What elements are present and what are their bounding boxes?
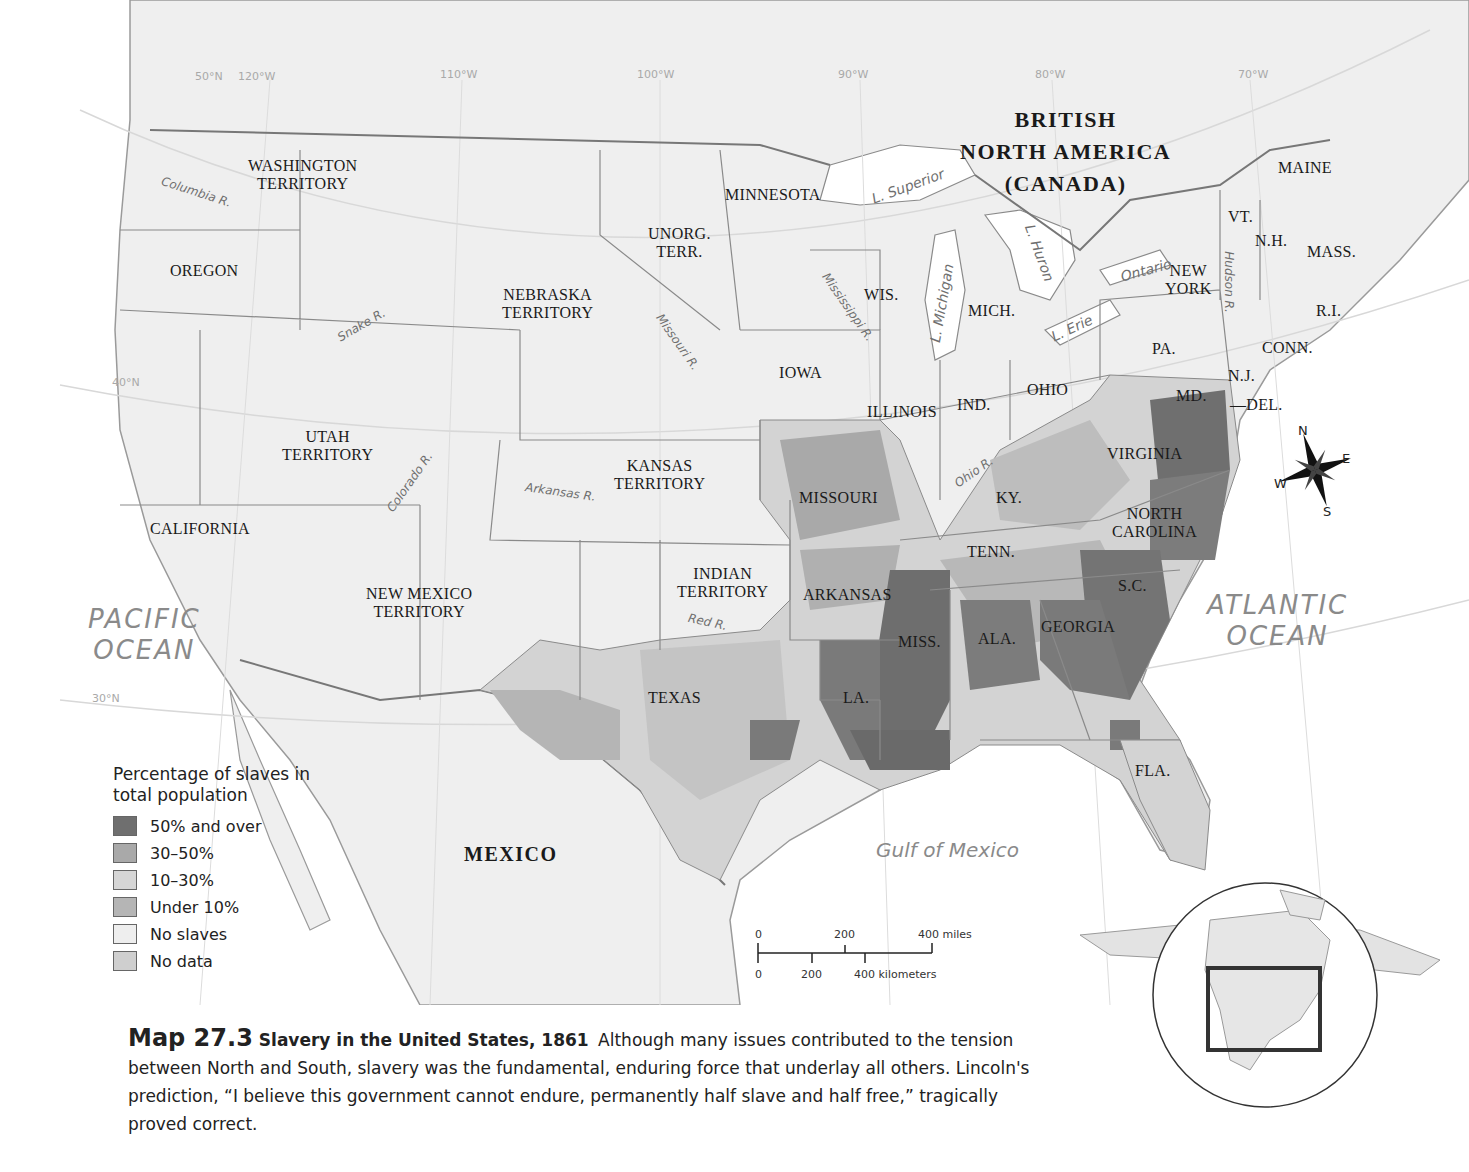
label-line: UTAH xyxy=(282,428,373,446)
label-new-hampshire: N.H. xyxy=(1255,232,1287,250)
label-new-mexico-territory: NEW MEXICOTERRITORY xyxy=(366,585,472,620)
label-south-carolina: S.C. xyxy=(1118,577,1147,595)
label-maryland: MD. xyxy=(1176,387,1207,405)
legend-label: Under 10% xyxy=(150,898,239,917)
label-oregon: OREGON xyxy=(170,262,238,280)
label-connecticut: CONN. xyxy=(1262,339,1313,357)
label-lon-100w: 100°W xyxy=(637,68,674,81)
label-kentucky: KY. xyxy=(996,489,1022,507)
label-pacific-ocean: PACIFICOCEAN xyxy=(88,604,201,666)
slavery-map: BRITISH NORTH AMERICA (CANADA) MEXICO WA… xyxy=(0,0,1469,1005)
svg-text:0: 0 xyxy=(755,968,762,981)
label-lon-120w: 120°W xyxy=(238,70,275,83)
label-line: OCEAN xyxy=(1207,621,1348,652)
label-line: CAROLINA xyxy=(1112,523,1197,541)
legend-swatch xyxy=(113,870,137,890)
label-illinois: ILLINOIS xyxy=(867,403,937,421)
label-hudson-river: Hudson R. xyxy=(1222,251,1236,312)
legend-title: Percentage of slaves in total population xyxy=(113,764,313,807)
label-line: NORTH AMERICA xyxy=(960,136,1171,168)
legend-item: No slaves xyxy=(113,921,313,948)
label-line: TERRITORY xyxy=(282,446,373,464)
label-rhode-island: R.I. xyxy=(1316,302,1341,320)
label-delaware: —DEL. xyxy=(1230,396,1283,414)
map-caption: Map 27.3Slavery in the United States, 18… xyxy=(128,1024,1048,1138)
label-line: (CANADA) xyxy=(960,168,1171,200)
label-missouri: MISSOURI xyxy=(799,489,878,507)
label-british-north-america: BRITISH NORTH AMERICA (CANADA) xyxy=(960,104,1171,200)
scale-bar: 0 200 400 miles 0 200 400 kilometers xyxy=(752,925,992,985)
label-line: KANSAS xyxy=(614,457,705,475)
label-gulf-of-mexico: Gulf of Mexico xyxy=(876,838,1019,862)
label-line: TERRITORY xyxy=(614,475,705,493)
label-lon-90w: 90°W xyxy=(838,68,868,81)
legend-label: No data xyxy=(150,952,213,971)
legend-item: 30–50% xyxy=(113,840,313,867)
label-line: TERRITORY xyxy=(502,304,593,322)
label-line: NEW MEXICO xyxy=(366,585,472,603)
label-kansas-territory: KANSASTERRITORY xyxy=(614,457,705,492)
label-line: BRITISH xyxy=(960,104,1171,136)
legend-swatch xyxy=(113,816,137,836)
label-line: TERRITORY xyxy=(366,603,472,621)
label-louisiana: LA. xyxy=(843,689,869,707)
svg-text:W: W xyxy=(1274,476,1287,491)
label-nebraska-territory: NEBRASKATERRITORY xyxy=(502,286,593,321)
caption-map-number: Map 27.3 xyxy=(128,1024,253,1052)
label-virginia: VIRGINIA xyxy=(1107,445,1182,463)
label-michigan: MICH. xyxy=(968,302,1015,320)
label-mississippi: MISS. xyxy=(898,633,941,651)
legend-label: 30–50% xyxy=(150,844,214,863)
label-line: INDIAN xyxy=(677,565,768,583)
label-unorganized-territory: UNORG.TERR. xyxy=(648,225,711,260)
label-line: TERR. xyxy=(648,243,711,261)
map-legend: Percentage of slaves in total population… xyxy=(113,764,313,975)
legend-swatch xyxy=(113,924,137,944)
label-mexico: MEXICO xyxy=(464,843,557,865)
label-line: PACIFIC xyxy=(88,604,201,635)
legend-label: 10–30% xyxy=(150,871,214,890)
label-wisconsin: WIS. xyxy=(864,286,899,304)
compass-rose-icon: N E S W xyxy=(1260,420,1360,520)
label-lat-30n: 30°N xyxy=(92,692,120,705)
label-massachusetts: MASS. xyxy=(1307,243,1356,261)
svg-text:400 kilometers: 400 kilometers xyxy=(854,968,937,981)
label-line: NEBRASKA xyxy=(502,286,593,304)
label-california: CALIFORNIA xyxy=(150,520,250,538)
label-line: ATLANTIC xyxy=(1207,590,1348,621)
label-tennessee: TENN. xyxy=(967,543,1015,561)
label-north-carolina: NORTHCAROLINA xyxy=(1112,505,1197,540)
svg-text:E: E xyxy=(1342,451,1350,466)
label-maine: MAINE xyxy=(1278,159,1332,177)
svg-text:0: 0 xyxy=(755,928,762,941)
locator-globe xyxy=(1150,880,1380,1110)
label-minnesota: MINNESOTA xyxy=(725,186,821,204)
label-line: TERRITORY xyxy=(248,175,357,193)
label-washington-territory: WASHINGTONTERRITORY xyxy=(248,157,357,192)
label-line: TERRITORY xyxy=(677,583,768,601)
label-line: YORK xyxy=(1165,280,1212,298)
legend-item: 50% and over xyxy=(113,813,313,840)
label-indian-territory: INDIANTERRITORY xyxy=(677,565,768,600)
label-pennsylvania: PA. xyxy=(1152,340,1176,358)
label-lon-70w: 70°W xyxy=(1238,68,1268,81)
legend-swatch xyxy=(113,951,137,971)
svg-text:200: 200 xyxy=(834,928,855,941)
label-line: WASHINGTON xyxy=(248,157,357,175)
label-new-jersey: N.J. xyxy=(1228,367,1255,385)
label-lat-50n: 50°N xyxy=(195,70,223,83)
label-utah-territory: UTAHTERRITORY xyxy=(282,428,373,463)
svg-text:S: S xyxy=(1323,504,1331,519)
label-line: UNORG. xyxy=(648,225,711,243)
label-indiana: IND. xyxy=(957,396,991,414)
legend-item: No data xyxy=(113,948,313,975)
label-lon-110w: 110°W xyxy=(440,68,477,81)
legend-swatch xyxy=(113,897,137,917)
label-ohio: OHIO xyxy=(1027,381,1068,399)
label-vermont: VT. xyxy=(1228,208,1253,226)
legend-item: 10–30% xyxy=(113,867,313,894)
label-arkansas: ARKANSAS xyxy=(803,586,892,604)
label-lon-80w: 80°W xyxy=(1035,68,1065,81)
legend-label: 50% and over xyxy=(150,817,262,836)
label-florida: FLA. xyxy=(1135,762,1170,780)
